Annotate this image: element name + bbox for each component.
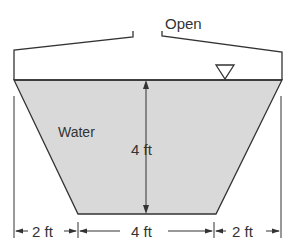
dimension-right-label: 2 ft (232, 223, 254, 240)
open-label: Open (165, 15, 202, 32)
trapezoidal-channel-diagram: Open Water 4 ft 2 ft 4 ft 2 ft (0, 0, 295, 248)
water-label: Water (58, 124, 95, 140)
dimension-middle-label: 4 ft (131, 223, 153, 240)
depth-label: 4 ft (131, 141, 153, 158)
dimension-left-label: 2 ft (32, 223, 54, 240)
free-surface-triangle-icon (216, 65, 234, 79)
tank-wall-left (14, 31, 133, 80)
